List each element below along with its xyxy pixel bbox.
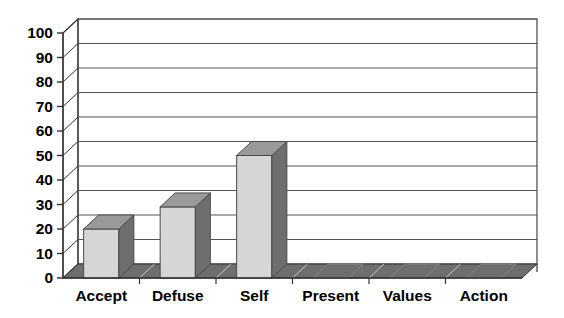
gridline-depth-connector [63, 240, 78, 254]
x-tick-label-values: Values [383, 287, 432, 304]
x-tick-label-accept: Accept [75, 287, 127, 304]
y-tick-label: 20 [36, 220, 53, 237]
x-tick-labels: AcceptDefuseSelfPresentValuesAction [75, 287, 507, 304]
bar-self[interactable] [237, 142, 287, 279]
y-tick-label: 90 [36, 49, 53, 66]
x-tick-label-present: Present [302, 287, 359, 304]
y-tick-label: 40 [36, 171, 53, 188]
bar-side-face[interactable] [195, 193, 210, 278]
y-tick-label: 50 [36, 147, 53, 164]
x-tick-label-defuse: Defuse [152, 287, 204, 304]
gridline-depth-connector [63, 142, 78, 156]
gridline-depth-connector [63, 166, 78, 180]
y-tick-label: 70 [36, 98, 53, 115]
gridline-depth-connector [63, 191, 78, 205]
gridline-depth-connector [63, 68, 78, 82]
bar-defuse[interactable] [160, 193, 210, 278]
y-tick-label: 30 [36, 196, 53, 213]
bar-accept[interactable] [84, 215, 134, 278]
gridline-depth-connector [63, 93, 78, 107]
bar-side-face[interactable] [272, 142, 287, 279]
x-tick-label-self: Self [240, 287, 269, 304]
gridline-depth-connector [63, 19, 78, 33]
bar-chart-figure: 0102030405060708090100AcceptDefuseSelfPr… [0, 0, 564, 318]
gridline-depth-connector [63, 215, 78, 229]
x-tick-label-action: Action [460, 287, 508, 304]
y-tick-label: 80 [36, 73, 53, 90]
bar-front-face[interactable] [237, 156, 272, 279]
y-tick-label: 0 [44, 269, 53, 286]
y-tick-label: 100 [27, 24, 53, 41]
y-tick-group: 0102030405060708090100 [27, 24, 63, 286]
y-tick-label: 10 [36, 245, 53, 262]
gridline-depth-connector [63, 44, 78, 58]
bar-front-face[interactable] [84, 229, 119, 278]
gridline-depth-connector [63, 117, 78, 131]
chart-canvas: 0102030405060708090100AcceptDefuseSelfPr… [0, 0, 564, 318]
y-tick-label: 60 [36, 122, 53, 139]
bar-front-face[interactable] [160, 207, 195, 278]
